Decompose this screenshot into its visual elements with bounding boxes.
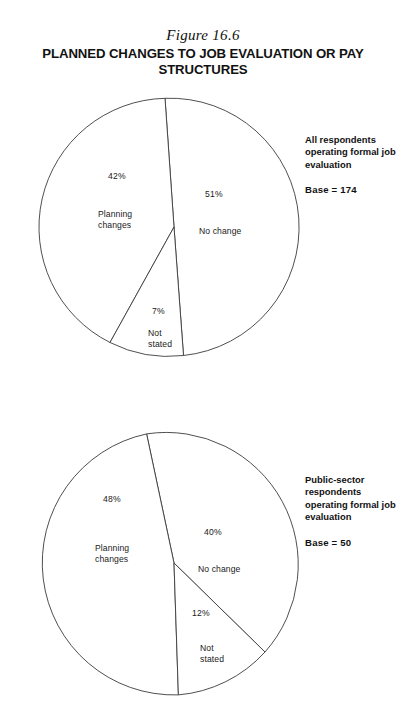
pie-2-label-pct-planning-changes: 48%	[103, 494, 121, 504]
figure-page: Figure 16.6 PLANNED CHANGES TO JOB EVALU…	[0, 0, 406, 727]
page-title: PLANNED CHANGES TO JOB EVALUATION OR PAY…	[18, 46, 388, 77]
pie-2-label-name-no-change: No change	[198, 564, 240, 575]
pie-2-label-name-planning-changes: Planning changes	[95, 543, 129, 565]
pie-chart-1-legend-base: Base = 174	[305, 184, 357, 195]
pie-chart-2-legend-title: Public-sector respondents operating form…	[305, 474, 397, 524]
pie-2-label-pct-not-stated: 12%	[192, 608, 210, 618]
pie-chart-1-legend-title: All respondents operating formal job eva…	[305, 134, 397, 171]
pie-1-label-pct-planning-changes: 42%	[108, 171, 126, 181]
pie-1-label-name-no-change: No change	[199, 226, 241, 237]
pie-2-label-name-not-stated: Not stated	[200, 643, 224, 665]
pie-chart-2: 40% No change 48% Planning changes 12% N…	[0, 430, 406, 700]
figure-number: Figure 16.6	[0, 27, 406, 44]
pie-1-label-name-planning-changes: Planning changes	[98, 209, 132, 231]
pie-1-label-name-not-stated: Not stated	[148, 328, 172, 350]
pie-1-label-pct-no-change: 51%	[205, 189, 223, 199]
pie-chart-2-legend-base: Base = 50	[305, 537, 351, 548]
pie-2-label-pct-no-change: 40%	[204, 527, 222, 537]
pie-1-label-pct-not-stated: 7%	[152, 306, 165, 316]
